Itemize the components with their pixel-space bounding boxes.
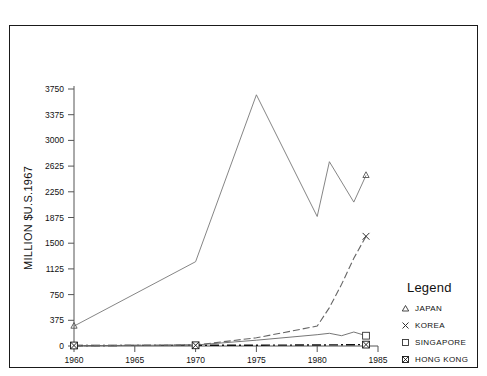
square-marker-icon	[398, 333, 412, 351]
legend-item-japan[interactable]: JAPAN	[398, 300, 487, 316]
x-marker-icon	[398, 316, 412, 334]
x-tick-label: 1970	[186, 355, 205, 365]
series-line-singapore	[74, 332, 366, 346]
y-tick-label: 0	[59, 341, 64, 351]
y-axis-title: MILLION $U.S.1967	[22, 166, 34, 270]
x-tick-label: 1975	[247, 355, 266, 365]
y-tick-label: 750	[50, 290, 64, 300]
y-tick-label: 1875	[45, 213, 64, 223]
y-axis-tick-labels: 0 375 750 1125 1500 1875 2250 2625 3000 …	[45, 84, 64, 351]
series-line-korea	[74, 236, 366, 345]
x-tick-label: 1965	[125, 355, 144, 365]
triangle-marker-icon	[398, 299, 412, 317]
x-tick-label: 1960	[65, 355, 84, 365]
x-axis-tick-labels: 1960 1965 1970 1975 1980 1985	[65, 355, 388, 365]
legend-item-label: KOREA	[415, 321, 445, 330]
series-line-japan	[74, 95, 366, 326]
x-tick-label: 1980	[308, 355, 327, 365]
legend-item-singapore[interactable]: SINGAPORE	[398, 334, 487, 350]
x-tick-label: 1985	[369, 355, 388, 365]
y-tick-label: 1500	[45, 238, 64, 248]
chart-page: 0 375 750 1125 1500 1875 2250 2625 3000 …	[0, 0, 487, 376]
legend-item-korea[interactable]: KOREA	[398, 317, 487, 333]
series-markers-singapore	[363, 332, 370, 339]
y-tick-label: 1125	[46, 264, 65, 274]
chart-frame: 0 375 750 1125 1500 1875 2250 2625 3000 …	[9, 25, 478, 368]
legend-item-label: SINGAPORE	[415, 338, 466, 347]
legend-item-label: JAPAN	[415, 304, 442, 313]
y-tick-label: 375	[50, 315, 64, 325]
legend-item-label: HONG KONG	[415, 355, 468, 364]
y-axis-ticks	[68, 89, 74, 346]
y-tick-label: 3375	[45, 110, 64, 120]
legend-title: Legend	[398, 280, 487, 295]
y-tick-label: 3750	[45, 84, 64, 94]
x-axis-ticks	[74, 346, 378, 352]
chart-legend: Legend JAPAN KOREA	[398, 280, 487, 376]
series-markers-korea	[363, 233, 370, 240]
legend-item-hong-kong[interactable]: HONG KONG	[398, 351, 487, 367]
y-tick-label: 2625	[45, 161, 64, 171]
y-tick-label: 3000	[45, 135, 64, 145]
crossed-square-marker-icon	[398, 350, 412, 368]
y-tick-label: 2250	[45, 187, 64, 197]
